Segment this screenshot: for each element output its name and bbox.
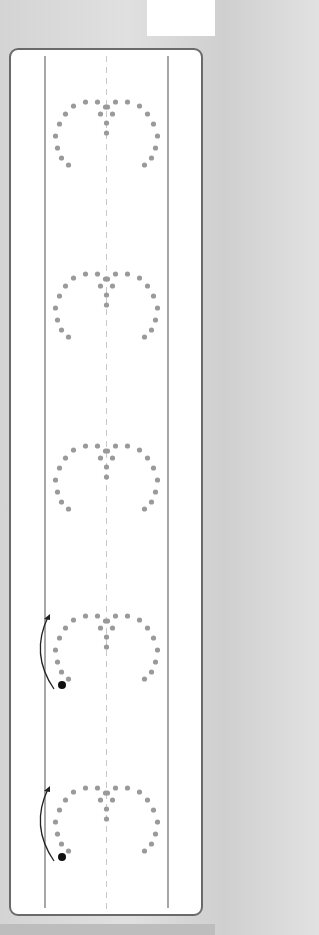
trace-dot (151, 635, 156, 640)
trace-dot (66, 848, 71, 853)
trace-dot (153, 317, 158, 322)
trace-dot (125, 443, 130, 448)
trace-dot (104, 130, 109, 135)
trace-dot (63, 111, 68, 116)
trace-dot (55, 317, 60, 322)
trace-dot (113, 99, 118, 104)
trace-dot (113, 271, 118, 276)
trace-dot (142, 506, 147, 511)
trace-dot (55, 489, 60, 494)
start-dot (58, 681, 66, 689)
trace-dot (57, 635, 62, 640)
trace-dot (137, 447, 142, 452)
trace-dot (71, 447, 76, 452)
trace-dot (110, 111, 115, 116)
trace-dot (95, 443, 100, 448)
trace-dot (155, 477, 160, 482)
trace-dot (63, 625, 68, 630)
trace-dot (149, 327, 154, 332)
trace-dot (55, 659, 60, 664)
trace-dot (103, 790, 108, 795)
trace-dot (104, 474, 109, 479)
trace-dot (71, 103, 76, 108)
trace-dot (59, 669, 64, 674)
trace-dot (57, 465, 62, 470)
trace-dot (66, 506, 71, 511)
trace-dot (63, 455, 68, 460)
trace-dot (149, 669, 154, 674)
trace-dot (71, 789, 76, 794)
trace-dot (151, 121, 156, 126)
trace-dot (125, 271, 130, 276)
trace-dot (151, 465, 156, 470)
trace-dot (53, 647, 58, 652)
trace-dot (95, 613, 100, 618)
trace-dot (110, 797, 115, 802)
trace-dot (66, 162, 71, 167)
trace-dot (57, 293, 62, 298)
direction-arrow (40, 789, 54, 861)
trace-dot (142, 676, 147, 681)
trace-dot (98, 111, 103, 116)
trace-dot (98, 797, 103, 802)
trace-dot (104, 644, 109, 649)
trace-dot (145, 797, 150, 802)
trace-dot (98, 283, 103, 288)
trace-dot (53, 477, 58, 482)
trace-dot (104, 816, 109, 821)
trace-dot (83, 99, 88, 104)
trace-dot (142, 162, 147, 167)
trace-dot (142, 848, 147, 853)
trace-dot (153, 489, 158, 494)
trace-dot (53, 133, 58, 138)
trace-dot (53, 305, 58, 310)
trace-dot (95, 785, 100, 790)
trace-dot (95, 99, 100, 104)
trace-dot (137, 275, 142, 280)
trace-dot (83, 785, 88, 790)
tracing-sheet (0, 0, 215, 935)
trace-dot (110, 625, 115, 630)
trace-dot (110, 455, 115, 460)
trace-dot (57, 807, 62, 812)
trace-dot (137, 617, 142, 622)
trace-dot (59, 155, 64, 160)
trace-dot (125, 785, 130, 790)
trace-dot (83, 271, 88, 276)
trace-dot (153, 659, 158, 664)
trace-dot (145, 111, 150, 116)
start-dot (58, 853, 66, 861)
trace-dot (53, 819, 58, 824)
trace-dot (145, 283, 150, 288)
trace-dot (142, 334, 147, 339)
trace-dot (103, 104, 108, 109)
trace-dot (104, 464, 109, 469)
trace-dot (104, 634, 109, 639)
trace-dot (103, 448, 108, 453)
trace-dot (95, 271, 100, 276)
trace-dot (155, 647, 160, 652)
trace-dot (145, 625, 150, 630)
trace-dot (98, 625, 103, 630)
trace-dot (149, 841, 154, 846)
trace-dot (110, 283, 115, 288)
trace-dot (55, 831, 60, 836)
trace-dot (71, 275, 76, 280)
trace-dot (59, 841, 64, 846)
trace-dot (83, 443, 88, 448)
trace-dot (55, 145, 60, 150)
trace-dot (63, 283, 68, 288)
trace-dot (125, 99, 130, 104)
trace-dot (153, 831, 158, 836)
trace-dot (57, 121, 62, 126)
trace-dot (98, 455, 103, 460)
direction-arrow (40, 617, 54, 689)
trace-dot (155, 305, 160, 310)
trace-dot (125, 613, 130, 618)
trace-dot (104, 302, 109, 307)
trace-dot (113, 785, 118, 790)
trace-dot (151, 293, 156, 298)
trace-dot (155, 819, 160, 824)
trace-dot (104, 292, 109, 297)
trace-dot (71, 617, 76, 622)
